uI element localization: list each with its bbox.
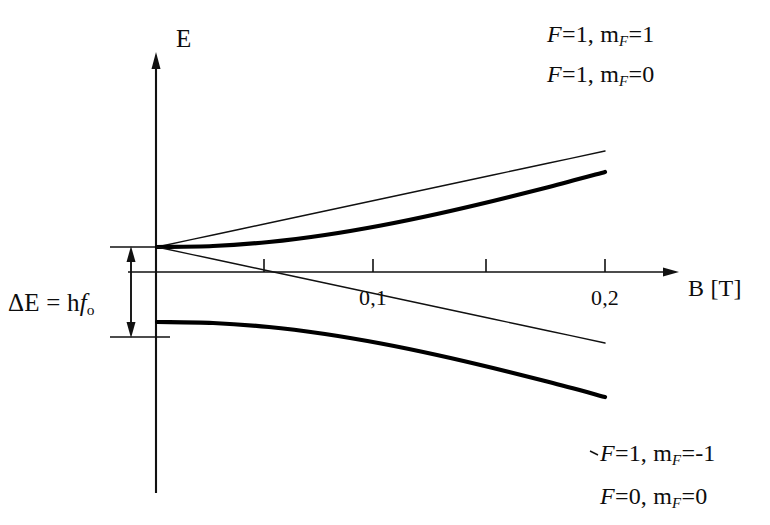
state-m-sub-2: F	[672, 452, 681, 468]
label-leader-lines	[590, 451, 598, 455]
y-axis-label: E	[176, 26, 191, 51]
state-m-symbol-3: m	[653, 483, 672, 509]
x-tick-label-0-1: 0,1	[359, 287, 387, 309]
state-m-sub-0: F	[619, 33, 628, 49]
delta-e-arrowhead-down	[127, 322, 136, 338]
breit-rabi-figure: E B [T] 0,1 0,2 ΔE = hfo F=1, mF=1 F=1, …	[0, 0, 770, 525]
state-f-symbol-0: F	[547, 21, 562, 47]
state-m-value-1: 0	[642, 61, 654, 87]
curve-f1-mf0-main	[157, 172, 605, 247]
x-tick-label-0-2: 0,2	[591, 287, 619, 309]
x-axis-ticks	[264, 259, 605, 272]
state-m-value-3: 0	[695, 483, 707, 509]
delta-e-arrowhead-up	[127, 246, 136, 262]
state-label-f1-mf1: F=1, mF=1	[547, 22, 654, 49]
state-f-symbol-2: F	[600, 440, 615, 466]
state-m-sub-3: F	[672, 495, 681, 511]
state-f-value-3: 0	[629, 483, 641, 509]
curve-f0-mf0	[157, 322, 605, 397]
state-f-value-0: 1	[576, 21, 588, 47]
state-f-value-2: 1	[629, 440, 641, 466]
state-f-symbol-1: F	[547, 61, 562, 87]
state-m-symbol-0: m	[600, 21, 619, 47]
state-m-symbol-2: m	[653, 440, 672, 466]
state-m-value-2: -1	[695, 440, 715, 466]
state-m-value-0: 1	[642, 21, 654, 47]
state-m-sub-1: F	[619, 73, 628, 89]
delta-e-f-symbol: f	[80, 289, 87, 316]
leader-f1-mfm1	[590, 451, 598, 455]
delta-e-prefix: ΔE = h	[8, 289, 80, 316]
delta-e-label: ΔE = hfo	[8, 290, 95, 318]
state-m-symbol-1: m	[600, 61, 619, 87]
state-label-f1-mfm1: F=1, mF=-1	[600, 441, 716, 468]
state-f-symbol-3: F	[600, 483, 615, 509]
x-axis-label: B [T]	[688, 276, 742, 300]
x-axis	[128, 268, 679, 277]
y-axis-arrowhead	[152, 52, 161, 69]
curve-f1-mf1	[157, 151, 605, 247]
state-f-value-1: 1	[576, 61, 588, 87]
delta-e-subscript: o	[87, 301, 95, 318]
x-axis-arrowhead	[663, 268, 679, 277]
state-label-f1-mf0: F=1, mF=0	[547, 62, 654, 89]
state-label-f0-mf0: F=0, mF=0	[600, 484, 707, 511]
delta-e-arrow	[127, 246, 136, 338]
